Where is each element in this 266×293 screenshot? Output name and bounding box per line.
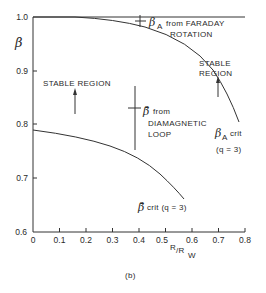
svg-text:from: from: [153, 107, 170, 116]
x-ticks: [60, 228, 246, 232]
beta-bar-crit-label: β̄ crit (q = 3): [137, 201, 187, 214]
y-tick-label: 0.9: [16, 66, 28, 76]
svg-text:A: A: [157, 22, 163, 31]
x-tick-label: 0.7: [213, 235, 225, 245]
x-tick-label: 0.3: [107, 235, 119, 245]
panel-label: (b): [125, 271, 136, 280]
svg-text:β̄: β̄: [142, 105, 149, 118]
x-tick-label: 0.1: [54, 235, 66, 245]
beta-a-crit-label: β A crit (q = 3): [214, 127, 242, 154]
stable-region-arrow-left: [73, 88, 77, 114]
x-tick-label: 0.6: [186, 235, 198, 245]
diamagnetic-label: β̄ from DIAMAGNETIC LOOP: [142, 105, 207, 139]
faraday-label: β A from FARADAY ROTATION: [148, 16, 225, 39]
svg-text:DIAMAGNETIC: DIAMAGNETIC: [148, 119, 207, 128]
x-tick-label: 0.8: [239, 235, 251, 245]
y-tick-label: 0.8: [16, 119, 28, 129]
svg-text:β: β: [148, 16, 155, 29]
svg-text:ROTATION: ROTATION: [170, 30, 213, 39]
y-axis-label: β: [14, 35, 23, 50]
x-axis-label: R /R W: [170, 243, 196, 260]
svg-text:β̄: β̄: [137, 201, 144, 214]
y-tick-label: 0.7: [16, 173, 28, 183]
chart-figure: 1.0 0.9 0.8 0.7 0.6 0 0.1 0.2 0.3 0.4 0.…: [0, 0, 266, 293]
x-tick-label: 0: [31, 235, 36, 245]
stable-region-right-label: STABLE: [199, 59, 231, 68]
svg-text:(q = 3): (q = 3): [216, 145, 241, 154]
svg-text:from FARADAY: from FARADAY: [166, 19, 225, 28]
x-tick-label: 0.2: [80, 235, 92, 245]
y-tick-label: 1.0: [16, 12, 28, 22]
diamagnetic-data-point: [128, 86, 141, 150]
stable-region-left-label: STABLE REGION: [43, 79, 111, 88]
svg-text:crit (q = 3): crit (q = 3): [147, 203, 187, 212]
x-tick-label: 0.4: [133, 235, 145, 245]
y-ticks: [33, 71, 37, 178]
svg-text:crit: crit: [230, 129, 242, 138]
svg-text:β: β: [214, 127, 221, 140]
svg-text:A: A: [222, 133, 228, 142]
svg-text:W: W: [188, 251, 196, 260]
stable-region-right-label: REGION: [199, 69, 232, 78]
x-tick-label: 0.5: [156, 235, 168, 245]
svg-text:/R: /R: [176, 246, 185, 255]
y-tick-label: 0.6: [15, 227, 27, 237]
svg-text:LOOP: LOOP: [148, 130, 171, 139]
beta-bar-crit-curve: [33, 130, 184, 199]
